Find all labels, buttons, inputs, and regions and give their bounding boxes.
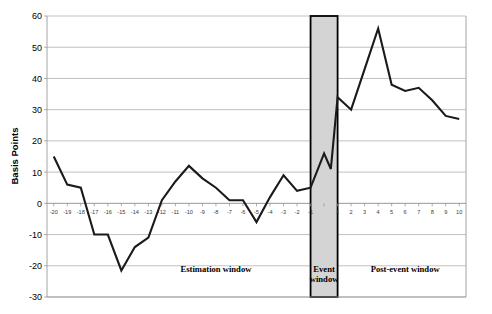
chart-container: -20-19-18-17-16-15-14-13-12-11-10-9-8-7-… [0, 0, 492, 314]
x-tick-label--19: -19 [63, 209, 71, 215]
y-tick-label-20: 20 [32, 136, 42, 146]
x-tick-label--8: -8 [213, 209, 218, 215]
x-tick-label--9: -9 [200, 209, 205, 215]
y-tick-label-50: 50 [32, 43, 42, 53]
x-tick-label--2: -2 [295, 209, 300, 215]
x-tick-label--13: -13 [144, 209, 152, 215]
y-tick-label--30: -30 [29, 292, 42, 302]
y-tick-label-40: 40 [32, 74, 42, 84]
event-window-label-line2: window [310, 274, 339, 284]
event-window-rect [311, 16, 338, 297]
x-tick-label--7: -7 [227, 209, 232, 215]
x-tick-label--20: -20 [50, 209, 58, 215]
x-tick-label--14: -14 [131, 209, 139, 215]
event-window-label-line1: Event [313, 264, 335, 274]
x-tick-label-6: 6 [404, 209, 407, 215]
x-tick-label-1: 1 [336, 209, 339, 215]
y-tick-label-10: 10 [32, 168, 42, 178]
event-window-band [311, 16, 338, 297]
event-study-line-chart: -20-19-18-17-16-15-14-13-12-11-10-9-8-7-… [0, 0, 492, 314]
y-tick-label-30: 30 [32, 105, 42, 115]
y-tick-label--10: -10 [29, 230, 42, 240]
x-tick-label--16: -16 [104, 209, 112, 215]
x-tick-label-9: 9 [444, 209, 447, 215]
x-tick-label-2: 2 [350, 209, 353, 215]
x-tick-label-8: 8 [431, 209, 434, 215]
x-tick-label--3: -3 [281, 209, 286, 215]
x-tick-label--10: -10 [185, 209, 193, 215]
estimation-window-label: Estimation window [180, 264, 252, 274]
x-tick-label-3: 3 [363, 209, 366, 215]
x-tick-label-7: 7 [417, 209, 420, 215]
x-tick-label-5: 5 [390, 209, 393, 215]
x-tick-label-4: 4 [377, 209, 380, 215]
y-tick-label--20: -20 [29, 261, 42, 271]
x-tick-label-10: 10 [456, 209, 462, 215]
x-tick-label--6: -6 [240, 209, 245, 215]
x-tick-label--18: -18 [77, 209, 85, 215]
x-tick-label--4: -4 [268, 209, 273, 215]
x-tick-label--15: -15 [117, 209, 125, 215]
x-tick-label--17: -17 [90, 209, 98, 215]
x-tick-label--1: -1 [308, 209, 313, 215]
x-tick-label--11: -11 [172, 209, 180, 215]
y-tick-label-60: 60 [32, 11, 42, 21]
post-event-window-label: Post-event window [371, 264, 441, 274]
y-axis-title: Basis Points [9, 127, 20, 184]
y-tick-label-0: 0 [37, 199, 42, 209]
x-tick-label--5: -5 [254, 209, 259, 215]
